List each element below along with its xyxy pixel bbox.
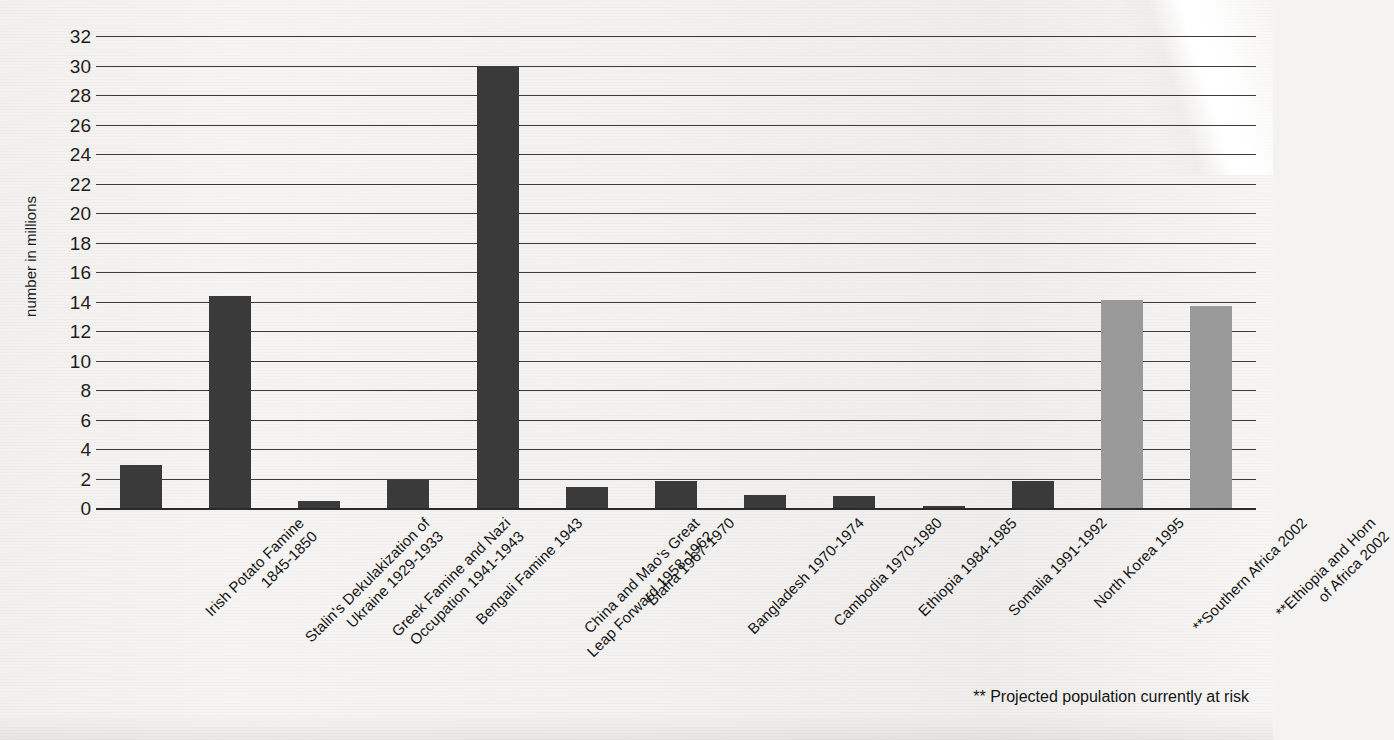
bar [298,501,340,508]
gridline [96,95,1256,96]
gridline [96,449,1256,450]
gridline [96,154,1256,155]
x-axis-tick-labels: Irish Potato Famine 1845-1850Stalin's De… [96,514,1256,684]
bar [833,496,875,508]
y-axis-title: number in millions [22,196,39,317]
bar [744,495,786,508]
bar [1190,306,1232,508]
x-axis-baseline [96,508,1256,510]
gridline [96,66,1256,67]
gridline [96,420,1256,421]
gridline [96,272,1256,273]
bar [566,487,608,508]
footnote: ** Projected population currently at ris… [973,688,1249,706]
y-tick-label: 32 [47,27,91,46]
gridline [96,479,1256,480]
y-tick-label: 24 [47,145,91,164]
y-tick-label: 18 [47,234,91,253]
y-tick-label: 30 [47,57,91,76]
y-tick-label: 8 [47,381,91,400]
x-tick-label: Irish Potato Famine 1845-1850 [201,514,321,634]
y-tick-label: 4 [47,440,91,459]
y-tick-label: 14 [47,293,91,312]
y-tick-label: 2 [47,470,91,489]
plot-area: 32302826242220181614121086420 [96,36,1256,508]
bar [387,479,429,508]
gridline [96,331,1256,332]
bar [655,481,697,508]
bar [923,506,965,508]
gridline [96,390,1256,391]
y-tick-label: 20 [47,204,91,223]
gridline [96,184,1256,185]
y-tick-label: 10 [47,352,91,371]
y-tick-label: 28 [47,86,91,105]
gridline [96,125,1256,126]
bar [209,296,251,508]
gridline [96,213,1256,214]
bar [1101,300,1143,508]
y-tick-label: 6 [47,411,91,430]
gridline [96,36,1256,37]
x-tick-label: Somalia 1991-1992 [1004,514,1110,620]
bar [1012,481,1054,508]
gridline [96,243,1256,244]
y-tick-label: 26 [47,116,91,135]
bar [120,465,162,509]
gridline [96,302,1256,303]
bar [477,66,519,509]
x-tick-label: China and Mao's Great Leap Forward 1958-… [570,514,717,661]
y-tick-label: 12 [47,322,91,341]
gridline [96,361,1256,362]
y-tick-label: 16 [47,263,91,282]
y-tick-label: 0 [47,499,91,518]
y-tick-label: 22 [47,175,91,194]
